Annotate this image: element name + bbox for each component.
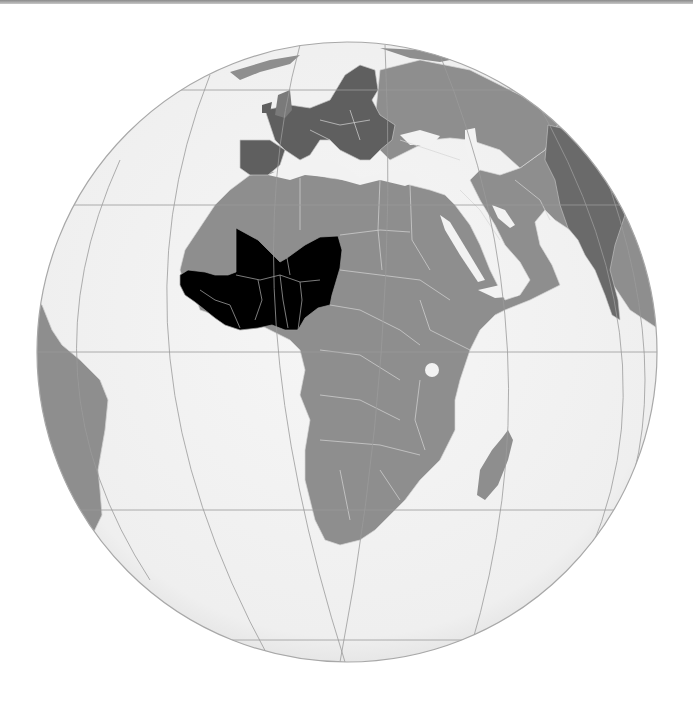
lake-victoria [425, 363, 439, 377]
globe-map [0, 0, 693, 711]
